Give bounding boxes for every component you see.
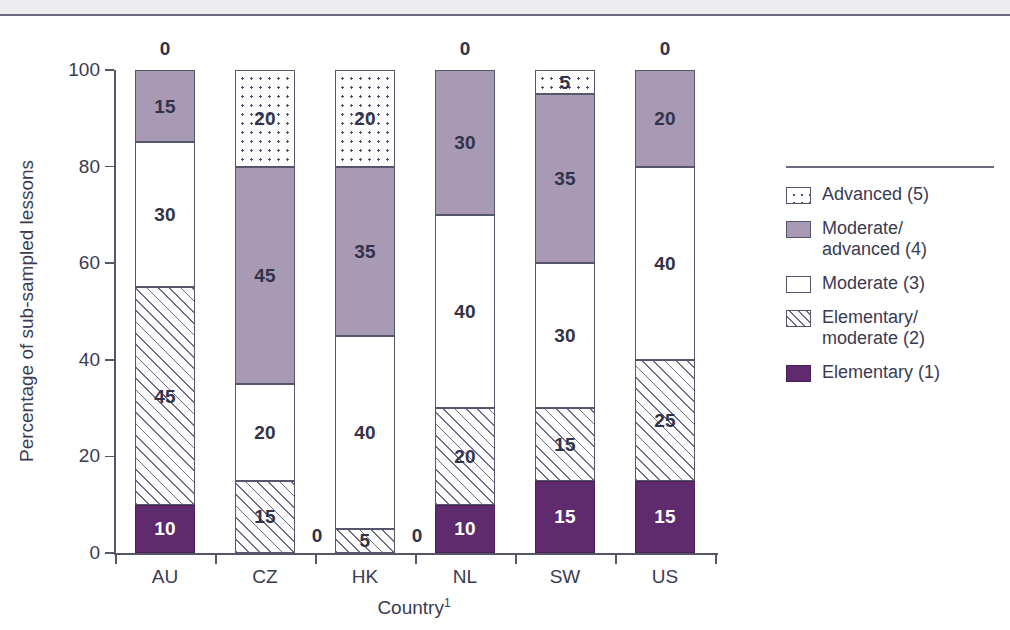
bar-group-au[interactable]: 15304510 bbox=[135, 0, 195, 630]
bar-value-label: 25 bbox=[654, 411, 676, 430]
bar-segment-sw-advanced[interactable]: 5 bbox=[535, 70, 595, 94]
legend-item-moderate[interactable]: Moderate (3) bbox=[786, 273, 996, 294]
x-tick-boundary-1 bbox=[215, 554, 217, 564]
bar-segment-cz-modadv[interactable]: 45 bbox=[235, 167, 295, 384]
bar-segment-sw-modadv[interactable]: 35 bbox=[535, 94, 595, 263]
bar-group-sw[interactable]: 535301515 bbox=[535, 0, 595, 630]
bar-segment-hk-modadv[interactable]: 35 bbox=[335, 167, 395, 336]
legend-label: Advanced (5) bbox=[822, 184, 929, 205]
bar-value-label: 20 bbox=[354, 109, 376, 128]
bar-value-label: 10 bbox=[454, 519, 476, 538]
bar-value-label: 10 bbox=[154, 519, 176, 538]
bar-value-label: 15 bbox=[254, 507, 276, 526]
y-tick-20 bbox=[105, 456, 114, 458]
y-tick-label-0: 0 bbox=[52, 542, 100, 564]
x-tick-boundary-5 bbox=[615, 554, 617, 564]
bar-value-label: 20 bbox=[454, 447, 476, 466]
legend-item-modadv[interactable]: Moderate/ advanced (4) bbox=[786, 218, 996, 260]
bar-value-label: 45 bbox=[254, 266, 276, 285]
bar-value-label: 35 bbox=[554, 169, 576, 188]
bar-segment-au-moderate[interactable]: 30 bbox=[135, 142, 195, 287]
y-tick-label-60: 60 bbox=[52, 252, 100, 274]
bar-segment-hk-moderate[interactable]: 40 bbox=[335, 336, 395, 529]
bar-value-label: 5 bbox=[560, 73, 571, 92]
chart-legend: Advanced (5)Moderate/ advanced (4)Modera… bbox=[786, 166, 996, 383]
bar-value-label: 15 bbox=[554, 435, 576, 454]
bar-value-label: 5 bbox=[360, 531, 371, 550]
bar-value-label: 45 bbox=[154, 387, 176, 406]
y-tick-label-80: 80 bbox=[52, 156, 100, 178]
bar-group-us[interactable]: 20402515 bbox=[635, 0, 695, 630]
bar-segment-cz-advanced[interactable]: 20 bbox=[235, 70, 295, 167]
bar-segment-nl-modadv[interactable]: 30 bbox=[435, 70, 495, 215]
bar-segment-nl-elementary[interactable]: 10 bbox=[435, 505, 495, 553]
bar-segment-us-elementary[interactable]: 15 bbox=[635, 481, 695, 553]
bar-value-label: 40 bbox=[354, 423, 376, 442]
bar-value-label: 15 bbox=[154, 97, 176, 116]
bar-segment-hk-advanced[interactable]: 20 bbox=[335, 70, 395, 167]
x-tick-boundary-3 bbox=[415, 554, 417, 564]
y-tick-label-100: 100 bbox=[52, 59, 100, 81]
x-axis-title: Country1 bbox=[314, 596, 514, 619]
legend-item-advanced[interactable]: Advanced (5) bbox=[786, 184, 996, 205]
y-tick-100 bbox=[105, 69, 114, 71]
bar-value-label: 30 bbox=[154, 205, 176, 224]
zero-label-side-hk: 0 bbox=[402, 525, 432, 547]
bar-segment-nl-elemmod[interactable]: 20 bbox=[435, 408, 495, 505]
bar-value-label: 35 bbox=[354, 242, 376, 261]
bar-group-nl[interactable]: 30402010 bbox=[435, 0, 495, 630]
y-axis-line bbox=[114, 70, 116, 554]
bar-value-label: 30 bbox=[554, 326, 576, 345]
bar-segment-au-elemmod[interactable]: 45 bbox=[135, 287, 195, 504]
bar-segment-sw-elementary[interactable]: 15 bbox=[535, 481, 595, 553]
zero-label-side-cz: 0 bbox=[302, 525, 332, 547]
legend-label: Elementary (1) bbox=[822, 362, 940, 383]
legend-swatch-modadv-icon bbox=[786, 221, 811, 238]
bar-value-label: 15 bbox=[654, 507, 676, 526]
legend-swatch-elementary-icon bbox=[786, 365, 811, 382]
x-axis-title-text: Country bbox=[377, 597, 444, 618]
legend-swatch-advanced-icon bbox=[786, 187, 811, 204]
zero-label-top-us: 0 bbox=[635, 38, 695, 60]
x-tick-boundary-4 bbox=[515, 554, 517, 564]
zero-label-top-au: 0 bbox=[135, 38, 195, 60]
bar-segment-us-modadv[interactable]: 20 bbox=[635, 70, 695, 167]
legend-swatch-moderate-icon bbox=[786, 276, 811, 293]
legend-item-elementary[interactable]: Elementary (1) bbox=[786, 362, 996, 383]
bar-segment-nl-moderate[interactable]: 40 bbox=[435, 215, 495, 408]
y-tick-40 bbox=[105, 359, 114, 361]
zero-label-top-nl: 0 bbox=[435, 38, 495, 60]
bar-value-label: 40 bbox=[454, 302, 476, 321]
x-axis-title-superscript: 1 bbox=[444, 596, 451, 610]
y-axis-title: Percentage of sub-sampled lessons bbox=[16, 101, 38, 521]
bar-value-label: 20 bbox=[254, 109, 276, 128]
legend-label: Moderate/ advanced (4) bbox=[822, 218, 927, 260]
bar-segment-au-modadv[interactable]: 15 bbox=[135, 70, 195, 142]
y-tick-60 bbox=[105, 262, 114, 264]
bar-segment-sw-elemmod[interactable]: 15 bbox=[535, 408, 595, 480]
bar-value-label: 15 bbox=[554, 507, 576, 526]
legend-swatch-elemmod-icon bbox=[786, 310, 811, 327]
bar-segment-us-elemmod[interactable]: 25 bbox=[635, 360, 695, 481]
y-tick-80 bbox=[105, 166, 114, 168]
legend-label: Moderate (3) bbox=[822, 273, 925, 294]
bar-segment-au-elementary[interactable]: 10 bbox=[135, 505, 195, 553]
bar-segment-cz-moderate[interactable]: 20 bbox=[235, 384, 295, 481]
bar-segment-cz-elemmod[interactable]: 15 bbox=[235, 481, 295, 553]
legend-item-elemmod[interactable]: Elementary/ moderate (2) bbox=[786, 307, 996, 349]
bar-group-hk[interactable]: 2035405 bbox=[335, 0, 395, 630]
y-tick-0 bbox=[105, 552, 114, 554]
y-tick-label-20: 20 bbox=[52, 445, 100, 467]
bar-value-label: 40 bbox=[654, 254, 676, 273]
y-tick-label-40: 40 bbox=[52, 349, 100, 371]
bar-segment-hk-elemmod[interactable]: 5 bbox=[335, 529, 395, 553]
bar-value-label: 20 bbox=[654, 109, 676, 128]
bar-segment-sw-moderate[interactable]: 30 bbox=[535, 263, 595, 408]
bar-segment-us-moderate[interactable]: 40 bbox=[635, 167, 695, 360]
x-tick-boundary-2 bbox=[315, 554, 317, 564]
x-tick-boundary-0 bbox=[115, 554, 117, 564]
legend-label: Elementary/ moderate (2) bbox=[822, 307, 925, 349]
x-tick-boundary-6 bbox=[715, 554, 717, 564]
bar-group-cz[interactable]: 20452015 bbox=[235, 0, 295, 630]
bar-value-label: 30 bbox=[454, 133, 476, 152]
